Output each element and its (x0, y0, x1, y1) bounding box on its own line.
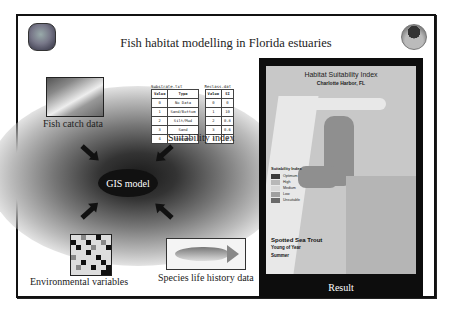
legend-label: High (283, 180, 290, 184)
table-row: 2Silt/Mud (152, 117, 199, 126)
environmental-variables-label: Environmental variables (30, 276, 128, 287)
habitat-map: Habitat Suitability Index Charlotte Harb… (266, 66, 416, 274)
table-cell: 2 (205, 117, 221, 126)
species-life-history-label: Species life history data (158, 272, 254, 283)
table-cell: 0 (152, 99, 168, 108)
gis-model-label: GIS model (106, 178, 150, 189)
fish-tail (227, 245, 239, 263)
map-species-info: Spotted Sea Trout Young of Year Summer (271, 236, 322, 260)
map-legend: Suitability Index Optimum High Medium Lo… (271, 166, 302, 203)
table-cell: Silt/Mud (168, 117, 198, 126)
legend-swatch (271, 198, 280, 203)
slide-frame: Fish habitat modelling in Florida estuar… (16, 14, 436, 298)
table-row: 110 (205, 108, 233, 117)
result-panel: Habitat Suitability Index Charlotte Harb… (259, 58, 423, 298)
map-subtitle: Charlotte Harbor, FL (266, 80, 416, 86)
legend-label: Medium (283, 186, 296, 190)
map-title: Habitat Suitability Index (266, 71, 416, 78)
legend-swatch (271, 186, 280, 191)
fish-icon (175, 247, 229, 261)
table-cell: 0 (205, 99, 221, 108)
table-cell: 0.8 (222, 117, 234, 126)
suitability-index-label: Suitability index (168, 132, 234, 143)
species-stage: Young of Year (271, 244, 322, 252)
table-row: 20.8 (205, 117, 233, 126)
table-row: 1Sand/Bottom (152, 108, 199, 117)
species-fish-image (166, 238, 246, 270)
gis-model-node: GIS model (98, 169, 158, 197)
legend-label: Low (283, 192, 290, 196)
legend-swatch (271, 180, 280, 185)
table-header: SI (222, 90, 234, 99)
table-header: Value (205, 90, 221, 99)
legend-swatch (271, 192, 280, 197)
species-name: Spotted Sea Trout (271, 236, 322, 244)
table-row: 00 (205, 99, 233, 108)
legend-label: Unsuitable (283, 198, 300, 202)
table-header: Value (152, 90, 168, 99)
table-cell: Sand/Bottom (168, 108, 198, 117)
result-caption: Result (259, 282, 423, 293)
map-land (346, 176, 416, 274)
table-cell: 4 (152, 135, 168, 144)
slide-title: Fish habitat modelling in Florida estuar… (18, 36, 434, 51)
species-season: Summer (271, 252, 322, 260)
noaa-logo-icon (401, 24, 427, 50)
table-cell: 10 (222, 108, 234, 117)
map-water-high (298, 166, 338, 188)
table-row: 0No Data (152, 99, 199, 108)
table-cell: 2 (152, 117, 168, 126)
environmental-grid-icon (70, 234, 112, 276)
legend-title: Suitability Index (271, 166, 302, 171)
table-cell: 0 (222, 99, 234, 108)
table-cell: 1 (152, 108, 168, 117)
fish-catch-label: Fish catch data (43, 118, 103, 129)
legend-label: Optimum (283, 174, 298, 178)
legend-item: Unsuitable (271, 197, 302, 203)
fish-catch-photo-icon (46, 77, 104, 117)
table-cell: No Data (168, 99, 198, 108)
table-cell: 1 (205, 108, 221, 117)
map-land (296, 98, 386, 110)
table-header: Type (168, 90, 198, 99)
table-cell: 3 (152, 126, 168, 135)
legend-swatch (271, 174, 280, 179)
